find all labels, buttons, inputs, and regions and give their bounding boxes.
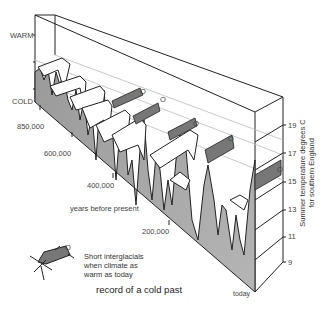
y-tick-17: 17 — [288, 149, 296, 158]
y-tick-11: 11 — [288, 232, 296, 241]
x-tick-200000: 200,000 — [142, 227, 169, 236]
cold-label: COLD — [12, 97, 33, 106]
legend-line-2: when climate as — [84, 261, 144, 270]
x-axis-title: years before present — [70, 204, 139, 213]
interglacial-marker: O — [140, 87, 146, 96]
y-axis-title-line2: for southern England — [307, 108, 316, 238]
y-tick-15: 15 — [288, 177, 296, 186]
y-axis-ticks — [255, 125, 286, 262]
interglacial-marker: O — [228, 134, 234, 143]
x-tick-today: today — [233, 290, 250, 297]
x-tick-400000: 400,000 — [87, 181, 114, 190]
x-tick-600000: 600,000 — [44, 149, 71, 158]
interglacial-marker: O — [193, 119, 199, 128]
legend-text: Short interglacials when climate as warm… — [84, 252, 144, 279]
y-tick-9: 9 — [288, 258, 292, 267]
legend-marker: O — [65, 243, 71, 252]
y-axis-title-line1: Summer temperature degrees C — [298, 108, 307, 238]
interglacial-marker: O — [277, 165, 283, 174]
data-area-front — [35, 68, 255, 292]
interglacial-marker: O — [160, 95, 166, 104]
y-tick-19: 19 — [288, 121, 296, 130]
legend-line-1: Short interglacials — [84, 252, 144, 261]
warm-label: WARM — [10, 31, 33, 40]
y-tick-13: 13 — [288, 205, 296, 214]
y-axis-title: Summer temperature degrees C for souther… — [298, 108, 316, 238]
legend-line-3: warm as today — [84, 270, 144, 279]
x-tick-850000: 850,000 — [17, 122, 44, 131]
chart-title: record of a cold past — [96, 284, 182, 295]
